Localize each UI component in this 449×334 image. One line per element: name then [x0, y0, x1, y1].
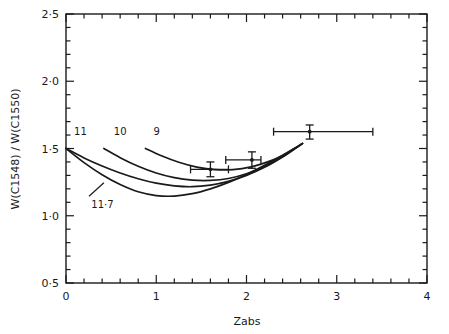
x-tick-label: 2	[243, 290, 250, 303]
y-axis-tick-labels: 0·51·01·52·02·5	[42, 8, 60, 290]
curve-label-9: 9	[154, 126, 160, 137]
x-tick-label: 4	[424, 290, 431, 303]
y-axis-label: W(C1548) / W(C1550)	[9, 89, 22, 210]
curve-label-leader-11-7	[89, 183, 104, 196]
data-marker	[209, 167, 213, 171]
y-tick-label: 2·5	[42, 8, 60, 21]
x-axis-tick-labels: 01234	[63, 290, 431, 303]
y-tick-label: 1·5	[42, 143, 60, 156]
x-axis-label: Zabs	[234, 315, 261, 328]
curve-label-11-7: 11·7	[91, 199, 113, 210]
y-tick-label: 2·0	[42, 75, 60, 88]
point-1	[191, 162, 229, 177]
plot-frame	[66, 14, 427, 283]
model-curve-labels: 1111·7109	[74, 126, 160, 210]
x-tick-label: 1	[153, 290, 160, 303]
data-marker	[308, 130, 312, 134]
data-marker	[250, 158, 254, 162]
curve-label-11: 11	[74, 126, 87, 137]
y-axis-ticks	[66, 14, 427, 283]
curve-label-10: 10	[114, 126, 127, 137]
model-curve-11-7	[66, 143, 302, 196]
figure-container: 01234 0·51·01·52·02·5 1111·7109 Zabs W(C…	[0, 0, 449, 334]
model-curve-10	[104, 144, 303, 181]
x-tick-label: 3	[333, 290, 340, 303]
plot-border	[66, 14, 427, 283]
chart-svg: 01234 0·51·01·52·02·5 1111·7109 Zabs W(C…	[0, 0, 449, 334]
x-tick-label: 0	[63, 290, 70, 303]
point-3	[274, 125, 373, 139]
model-curve-9	[145, 143, 302, 170]
data-points-with-errorbars	[191, 125, 373, 177]
model-curves	[66, 143, 302, 196]
y-tick-label: 0·5	[42, 277, 60, 290]
x-axis-ticks	[66, 14, 427, 283]
y-tick-label: 1·0	[42, 210, 60, 223]
